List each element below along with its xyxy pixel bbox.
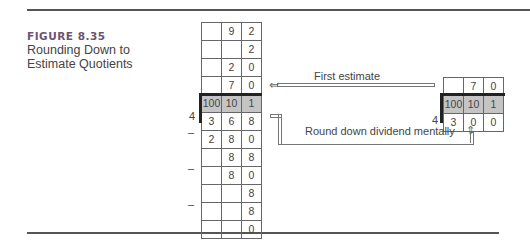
right-division-bracket-top xyxy=(440,93,505,96)
grid-cell: 100 xyxy=(201,94,222,113)
left-division-bracket-top xyxy=(199,93,262,96)
grid-cell xyxy=(221,40,242,59)
round-down-label: Round down dividend mentally xyxy=(305,125,455,137)
top-rule xyxy=(27,9,530,11)
grid-cell: 1 xyxy=(241,94,262,113)
grid-cell: 8 xyxy=(221,148,242,167)
grid-cell: 8 xyxy=(221,166,242,185)
grid-cell: 0 xyxy=(241,166,262,185)
grid-cell xyxy=(221,202,242,221)
grid-cell: 8 xyxy=(241,112,262,131)
figure-title: Rounding Down to Estimate Quotients xyxy=(27,43,147,71)
grid-cell xyxy=(201,148,222,167)
left-divisor: 4 xyxy=(189,110,195,122)
grid-cell xyxy=(201,166,222,185)
grid-cell: 9 xyxy=(221,22,242,41)
minus-sign: – xyxy=(188,198,194,210)
minus-sign: – xyxy=(188,162,194,174)
grid-cell: 8 xyxy=(241,202,262,221)
grid-cell: 2 xyxy=(241,40,262,59)
grid-cell: 2 xyxy=(201,130,222,149)
grid-cell xyxy=(201,184,222,203)
grid-cell: 10 xyxy=(463,95,484,114)
grid-cell xyxy=(221,220,242,239)
grid-cell: 6 xyxy=(221,112,242,131)
grid-cell: 1 xyxy=(483,95,504,114)
figure-label: FIGURE 8.35 xyxy=(27,30,106,42)
minus-sign: – xyxy=(188,126,194,138)
round-down-arrow-bottom xyxy=(278,140,474,145)
grid-cell: 3 xyxy=(201,112,222,131)
grid-cell: 0 xyxy=(241,58,262,77)
grid-cell: 0 xyxy=(483,113,504,132)
grid-cell: 8 xyxy=(241,148,262,167)
grid-cell: 8 xyxy=(221,130,242,149)
grid-cell xyxy=(201,220,222,239)
grid-cell: 0 xyxy=(241,220,262,239)
grid-cell xyxy=(201,22,222,41)
first-estimate-label: First estimate xyxy=(314,70,380,82)
grid-cell xyxy=(201,202,222,221)
grid-cell: 2 xyxy=(221,58,242,77)
grid-cell: 0 xyxy=(241,130,262,149)
bottom-rule xyxy=(27,232,499,234)
right-division-bracket-side xyxy=(440,93,443,123)
grid-cell: 10 xyxy=(221,94,242,113)
first-estimate-arrow-shaft xyxy=(277,83,435,87)
grid-cell: 8 xyxy=(241,184,262,203)
up-arrow-icon: ⇑ xyxy=(466,124,475,137)
grid-cell xyxy=(201,40,222,59)
left-division-bracket-side xyxy=(199,93,202,123)
grid-cell xyxy=(201,58,222,77)
left-arrow-icon: ⇐ xyxy=(269,78,279,92)
grid-cell: 2 xyxy=(241,22,262,41)
grid-cell xyxy=(221,184,242,203)
grid-cell: 100 xyxy=(443,95,464,114)
